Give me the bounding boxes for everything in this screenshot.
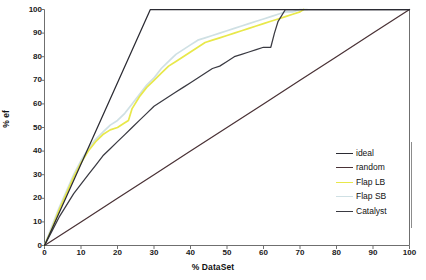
legend-swatch-icon — [336, 182, 353, 183]
legend-item-ideal[interactable]: ideal — [336, 146, 410, 161]
legend-item-label: Catalyst — [356, 207, 387, 216]
enrichment-chart-figure: 0102030405060708090100 01020304050607080… — [0, 0, 426, 280]
series-line-flap-sb — [45, 10, 308, 246]
legend-item-flap-lb[interactable]: Flap LB — [336, 175, 410, 190]
legend-item-random[interactable]: random — [336, 161, 410, 176]
legend-swatch-icon — [336, 153, 353, 154]
chart-legend: idealrandomFlap LBFlap SBCatalyst — [336, 146, 410, 222]
legend-item-label: Flap SB — [356, 192, 386, 201]
legend-item-flap-sb[interactable]: Flap SB — [336, 190, 410, 205]
legend-item-label: random — [356, 163, 385, 172]
legend-swatch-icon — [336, 211, 353, 212]
series-line-flap-lb — [45, 10, 304, 246]
legend-swatch-icon — [336, 196, 353, 197]
legend-item-label: ideal — [356, 149, 374, 158]
legend-swatch-icon — [336, 167, 353, 168]
legend-item-catalyst[interactable]: Catalyst — [336, 204, 410, 219]
plot-area — [0, 0, 426, 280]
legend-divider — [411, 142, 412, 228]
legend-item-label: Flap LB — [356, 178, 385, 187]
